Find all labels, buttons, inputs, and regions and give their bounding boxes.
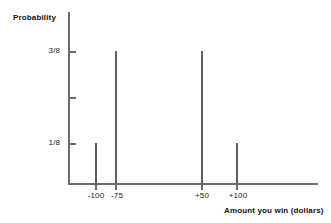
x-tick-mark-minus-75: [115, 185, 117, 190]
probability-distribution-chart: Probability 3/8 1/8 -100 -75 +50 +100 Am…: [0, 0, 331, 223]
x-tick-mark-minus-100: [95, 185, 97, 190]
y-tick-mark-three-eighths: [70, 51, 76, 53]
x-tick-label-plus-100: +100: [218, 191, 258, 200]
x-tick-mark-plus-100: [236, 185, 238, 190]
bar-minus-75: [115, 51, 117, 184]
y-tick-label-one-eighth-wrap: 1/8: [12, 139, 60, 147]
x-tick-mark-plus-50: [201, 185, 203, 190]
y-tick-label-one-eighth: 1/8: [12, 139, 60, 147]
y-tick-label-three-eighths-wrap: 3/8: [12, 47, 60, 55]
y-tick-label-three-eighths: 3/8: [12, 47, 60, 55]
x-axis-title: Amount you win (dollars): [224, 206, 324, 216]
x-tick-label-minus-75: -75: [97, 191, 137, 200]
bar-minus-100: [95, 143, 97, 184]
y-axis-title: Probability: [13, 13, 56, 23]
x-axis-line: [68, 183, 318, 185]
bar-plus-100: [236, 143, 238, 184]
x-tick-label-plus-50: +50: [182, 191, 222, 200]
y-tick-mark-two-eighths: [70, 97, 76, 99]
bar-plus-50: [201, 51, 203, 184]
y-tick-mark-one-eighth: [70, 143, 76, 145]
